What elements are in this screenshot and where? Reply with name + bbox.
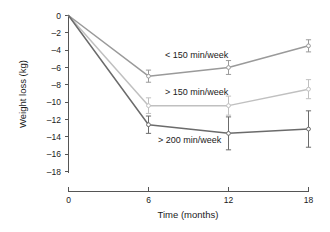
y-tick-label: –2 — [52, 28, 62, 38]
data-point — [227, 66, 231, 70]
data-point — [307, 127, 311, 131]
y-tick-label: –4 — [52, 45, 62, 55]
series-layer — [69, 16, 312, 150]
data-point — [147, 123, 151, 127]
y-tick-label: –10 — [47, 97, 61, 107]
x-axis-ticks — [69, 187, 309, 192]
y-tick-label: –6 — [52, 63, 62, 73]
y-tick-label: 0 — [56, 11, 61, 21]
series-line — [69, 16, 309, 134]
series-1 — [69, 16, 312, 83]
series-3 — [69, 16, 312, 150]
chart-canvas: 0 –2 –4 –6 –8 –10 –12 –14 –16 –18 Weight… — [0, 0, 330, 232]
series-label-gt150: > 150 min/week — [165, 87, 229, 97]
data-point — [307, 87, 311, 91]
y-axis-tick-labels: 0 –2 –4 –6 –8 –10 –12 –14 –16 –18 — [47, 11, 61, 177]
y-tick-label: –12 — [47, 115, 61, 125]
x-axis-tick-labels: 0 6 12 18 — [66, 195, 313, 205]
x-tick-label: 0 — [66, 195, 71, 205]
series-line — [69, 16, 309, 77]
data-point — [307, 44, 311, 48]
x-axis-title: Time (months) — [158, 209, 219, 220]
series-label-gt200: > 200 min/week — [158, 135, 222, 145]
x-tick-label: 18 — [304, 195, 314, 205]
x-tick-label: 12 — [224, 195, 234, 205]
x-tick-label: 6 — [146, 195, 151, 205]
data-point — [147, 74, 151, 78]
data-point — [227, 131, 231, 135]
series-label-lt150: < 150 min/week — [165, 50, 229, 60]
y-axis-ticks — [65, 16, 69, 172]
y-tick-label: –16 — [47, 149, 61, 159]
weight-loss-line-chart: 0 –2 –4 –6 –8 –10 –12 –14 –16 –18 Weight… — [0, 0, 330, 232]
y-axis-title: Weight loss (kg) — [17, 60, 28, 128]
data-point — [147, 104, 151, 108]
series-annotations: < 150 min/week > 150 min/week > 200 min/… — [158, 50, 229, 145]
data-point — [227, 104, 231, 108]
y-tick-label: –14 — [47, 132, 61, 142]
y-tick-label: –8 — [52, 80, 62, 90]
y-tick-label: –18 — [47, 167, 61, 177]
